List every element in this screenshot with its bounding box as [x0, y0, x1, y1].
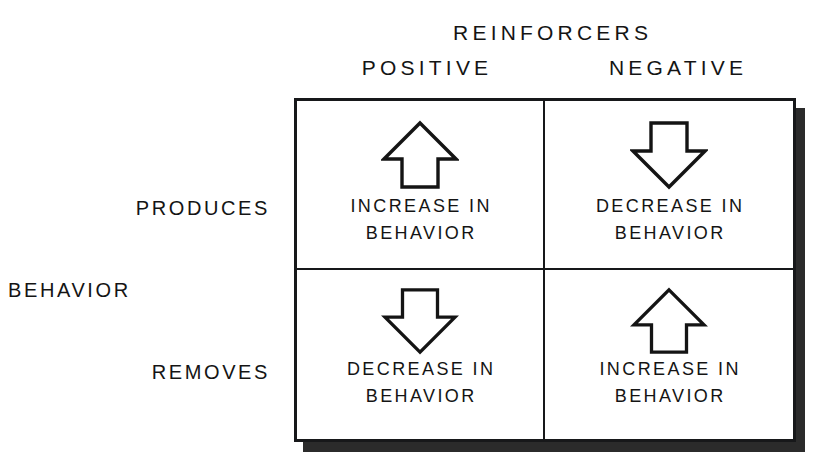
row-header-removes: REMOVES: [10, 360, 270, 384]
column-axis-title: REINFORCERS: [443, 20, 658, 46]
cell-removes-positive: DECREASE IN BEHAVIOR: [297, 270, 545, 439]
up-arrow-icon: [630, 286, 708, 356]
down-arrow-icon: [381, 286, 459, 356]
cell-label-line2: BEHAVIOR: [612, 383, 725, 410]
cell-line2-text: BEHAVIOR: [366, 386, 477, 406]
cell-label-line2: BEHAVIOR: [363, 383, 476, 410]
row-axis-title: BEHAVIOR: [8, 278, 131, 302]
row-header-produces: PRODUCES: [10, 196, 270, 220]
column-header-negative: NEGATIVE: [551, 55, 801, 81]
cell-line2-text: BEHAVIOR: [366, 223, 477, 243]
contingency-matrix: INCREASE IN BEHAVIOR DECREASE IN BEHAVIO…: [294, 98, 796, 442]
cell-label-line1: INCREASE IN: [597, 356, 741, 383]
cell-line2-text: BEHAVIOR: [615, 223, 726, 243]
cell-line1-text: INCREASE IN: [599, 359, 740, 379]
cell-removes-negative: INCREASE IN BEHAVIOR: [545, 270, 793, 439]
cell-line1-text: DECREASE IN: [596, 196, 744, 216]
cell-produces-negative: DECREASE IN BEHAVIOR: [545, 101, 793, 270]
cell-label-line1: DECREASE IN: [345, 356, 496, 383]
cell-label-line1: INCREASE IN: [348, 193, 492, 220]
cell-line1-text: INCREASE IN: [350, 196, 491, 216]
figure-canvas: REINFORCERS POSITIVE NEGATIVE BEHAVIOR P…: [0, 0, 815, 461]
up-arrow-icon: [381, 117, 459, 193]
cell-line2-text: BEHAVIOR: [615, 386, 726, 406]
column-header-positive: POSITIVE: [300, 55, 550, 81]
cell-line1-text: DECREASE IN: [347, 359, 495, 379]
cell-label-line1: DECREASE IN: [594, 193, 745, 220]
cell-label-line2: BEHAVIOR: [612, 220, 725, 247]
cell-label-line2: BEHAVIOR: [363, 220, 476, 247]
down-arrow-icon: [630, 117, 708, 193]
cell-produces-positive: INCREASE IN BEHAVIOR: [297, 101, 545, 270]
